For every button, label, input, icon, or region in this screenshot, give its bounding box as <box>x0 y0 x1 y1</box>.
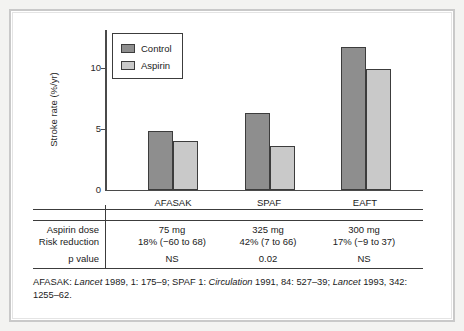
table-row-label-aspirin-dose: Aspirin dose <box>25 224 99 235</box>
table-cell-pvalue-afasak: NS <box>120 253 224 264</box>
bar-chart: Stroke rate (%/yr) 10 5 0 Control <box>0 0 464 331</box>
figure-page: Stroke rate (%/yr) 10 5 0 Control <box>0 0 464 331</box>
y-tick-0: 0 <box>82 185 101 195</box>
bar-eaft-aspirin <box>366 69 391 190</box>
y-axis-line <box>105 30 107 190</box>
table-cell-pvalue-eaft: NS <box>312 253 416 264</box>
category-label-spaf: SPAF <box>224 197 314 208</box>
bar-eaft-control <box>341 47 366 190</box>
y-tick-label-10: 10 <box>83 63 101 73</box>
table-row-label-p-value: p value <box>25 253 99 264</box>
bar-spaf-aspirin <box>270 146 295 190</box>
y-tick-mark-10 <box>101 68 105 70</box>
bar-spaf-control <box>245 113 270 190</box>
footnote-part-3: 1991, 84: 527–39; <box>252 277 332 287</box>
category-label-afasak: AFASAK <box>128 197 218 208</box>
table-cell-dose-spaf: 325 mg <box>216 224 320 235</box>
table-rule-middle <box>33 220 423 221</box>
legend-swatch-control-icon <box>121 44 135 53</box>
y-tick-10: 10 <box>82 63 101 73</box>
chart-legend: Control Aspirin <box>112 33 183 79</box>
table-row-label-risk-reduction: Risk reduction <box>25 236 99 247</box>
legend-swatch-aspirin-icon <box>121 61 135 70</box>
bar-afasak-control <box>148 131 173 190</box>
table-column-divider <box>105 205 106 268</box>
footnote-journal-lancet-1989: Lancet <box>74 277 102 287</box>
legend-label-aspirin: Aspirin <box>141 61 170 71</box>
table-cell-dose-afasak: 75 mg <box>120 224 224 235</box>
table-cell-risk-afasak: 18% (−60 to 68) <box>120 236 224 247</box>
table-cell-risk-spaf: 42% (7 to 66) <box>216 236 320 247</box>
legend-item-control: Control <box>121 40 182 57</box>
category-label-eaft: EAFT <box>320 197 410 208</box>
y-axis-title: Stroke rate (%/yr) <box>48 40 59 180</box>
table-cell-pvalue-spaf: 0.02 <box>216 253 320 264</box>
figure-footnote: AFASAK: Lancet 1989, 1: 175–9; SPAF 1: C… <box>33 276 425 301</box>
y-tick-5: 5 <box>82 124 101 134</box>
y-tick-mark-5 <box>101 129 105 131</box>
table-cell-risk-eaft: 17% (−9 to 37) <box>312 236 416 247</box>
table-rule-top <box>33 209 423 210</box>
footnote-part-2: 1989, 1: 175–9; SPAF 1: <box>102 277 208 287</box>
footnote-journal-circulation: Circulation <box>209 277 253 287</box>
bar-afasak-aspirin <box>173 141 198 190</box>
table-rule-bottom <box>33 268 423 269</box>
legend-item-aspirin: Aspirin <box>121 57 182 74</box>
table-cell-dose-eaft: 300 mg <box>312 224 416 235</box>
footnote-part-1: AFASAK: <box>33 277 74 287</box>
y-tick-label-0: 0 <box>83 185 101 195</box>
legend-label-control: Control <box>141 44 172 54</box>
footnote-journal-lancet-1993: Lancet <box>333 277 361 287</box>
y-tick-label-5: 5 <box>83 124 101 134</box>
